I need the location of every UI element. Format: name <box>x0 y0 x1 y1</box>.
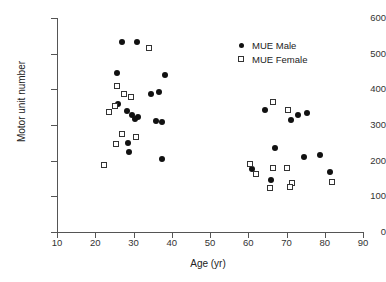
x-tick-label: 70 <box>272 238 302 247</box>
data-point-male <box>301 154 307 160</box>
y-axis-title: Motor unit number <box>16 27 27 177</box>
x-axis-title: Age (yr) <box>118 258 298 269</box>
x-tick-label: 80 <box>310 238 340 247</box>
legend-entry-mue-male: MUE Male <box>236 38 307 52</box>
legend-entry-mue-female: MUE Female <box>236 52 307 66</box>
data-point-female <box>112 103 118 109</box>
data-point-female <box>284 165 290 171</box>
filled-circle-icon <box>236 43 246 48</box>
data-point-female <box>267 185 273 191</box>
data-point-male <box>272 145 278 151</box>
scatter-chart-figure: 0100200300400500600 102030405060708090 M… <box>0 0 386 282</box>
data-point-female <box>119 131 125 137</box>
open-square-icon <box>236 56 246 62</box>
x-tick-label: 10 <box>42 238 72 247</box>
plot-area <box>57 18 363 232</box>
data-point-female <box>247 161 253 167</box>
data-point-female <box>270 165 276 171</box>
x-tick-label: 50 <box>195 238 225 247</box>
x-tick-label: 40 <box>157 238 187 247</box>
x-tick-label: 90 <box>348 238 378 247</box>
data-point-female <box>270 99 276 105</box>
data-point-female <box>121 91 127 97</box>
data-point-female <box>113 141 119 147</box>
data-point-female <box>133 134 139 140</box>
data-point-female <box>114 83 120 89</box>
data-point-male <box>119 39 125 45</box>
data-point-male <box>148 91 154 97</box>
x-tick-label: 20 <box>80 238 110 247</box>
data-point-female <box>287 184 293 190</box>
data-point-male <box>132 116 138 122</box>
x-tick-label: 30 <box>119 238 149 247</box>
data-point-male <box>304 110 310 116</box>
data-point-female <box>285 107 291 113</box>
legend-label-mue-female: MUE Female <box>252 54 307 65</box>
data-point-female <box>106 109 112 115</box>
data-point-male <box>159 156 165 162</box>
legend-label-mue-male: MUE Male <box>252 40 296 51</box>
data-point-male <box>125 140 131 146</box>
data-point-male <box>156 89 162 95</box>
data-point-female <box>128 94 134 100</box>
data-point-female <box>101 162 107 168</box>
data-point-male <box>134 39 140 45</box>
x-tick-label: 60 <box>233 238 263 247</box>
chart-legend: MUE Male MUE Female <box>236 38 307 66</box>
data-point-male <box>114 70 120 76</box>
data-point-male <box>295 112 301 118</box>
data-point-female <box>329 179 335 185</box>
data-point-female <box>253 171 259 177</box>
data-point-female <box>146 45 152 51</box>
